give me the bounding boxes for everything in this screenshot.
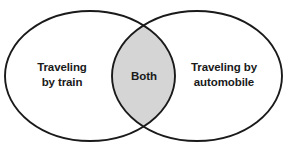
venn-diagram: Traveling by train Both Traveling by aut… [0, 0, 288, 149]
right-set-label: Traveling by automobile [172, 60, 276, 89]
intersection-label: Both [119, 69, 169, 84]
right-set-label-line2: automobile [172, 75, 276, 90]
left-set-label-line1: Traveling [12, 60, 112, 75]
left-set-label-line2: by train [12, 75, 112, 90]
left-set-label: Traveling by train [12, 60, 112, 89]
right-set-label-line1: Traveling by [172, 60, 276, 75]
intersection-label-text: Both [119, 69, 169, 84]
